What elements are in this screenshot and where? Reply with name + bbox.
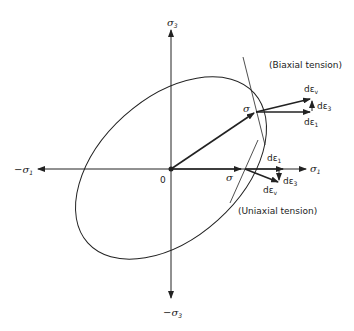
biaxial-de1-label: dε1 [304, 117, 319, 128]
uniaxial-de3-label: dε3 [283, 176, 298, 187]
uniaxial-sigma-label: σ [226, 172, 234, 183]
biaxial-sigma-label: σ [243, 103, 251, 114]
sigma1-label: σ1 [310, 163, 321, 175]
origin-label: 0 [160, 175, 166, 185]
sigma3-label: σ3 [167, 17, 178, 29]
uniaxial-tangent [230, 140, 258, 203]
neg-sigma1-label: −σ1 [14, 164, 33, 176]
biaxial-title: (Biaxial tension) [269, 60, 342, 70]
yield-surface-diagram: σ3 −σ3 −σ1 σ1 0 (Biaxial tension) σ dεv … [0, 0, 354, 331]
uniaxial-dev-label: dεv [263, 185, 278, 196]
biaxial-stress-vector [171, 113, 254, 169]
neg-sigma3-label: −σ3 [163, 307, 182, 319]
uniaxial-de1-label: dε1 [267, 153, 282, 164]
biaxial-tangent [243, 57, 265, 145]
uniaxial-dev-vector [245, 169, 278, 182]
biaxial-de3-label: dε3 [317, 101, 332, 112]
uniaxial-title: (Uniaxial tension) [238, 206, 317, 216]
biaxial-dev-label: dεv [304, 84, 319, 95]
biaxial-dev-vector [256, 99, 310, 112]
